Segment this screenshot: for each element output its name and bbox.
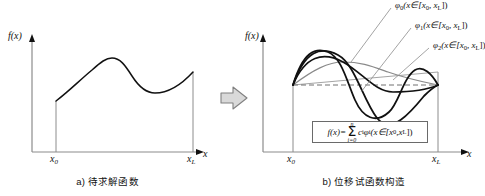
panel-a-solution-function: f(x) x x0 xL a) 待求解函数 — [0, 0, 215, 196]
panel-b-xL-tick-label: xL — [432, 153, 440, 166]
phi1-label: φ1(x∈[x0, xL]) — [415, 20, 467, 31]
panel-b-y-axis-label: f(x) — [245, 30, 259, 41]
figure-container: f(x) x x0 xL a) 待求解函数 — [0, 0, 485, 196]
panel-a-y-axis-arrowhead — [29, 34, 35, 42]
panel-b-x-axis-label: x — [467, 148, 471, 159]
panel-b-y-axis-arrowhead — [260, 34, 266, 42]
panel-b-caption: b) 位移试函数构造 — [243, 174, 485, 188]
panel-a-x0-tick-label: x0 — [50, 153, 58, 166]
trial-function-formula-box: f(x)= n Σ i=0 ciφi(x∈[x0,xL]) — [312, 121, 428, 143]
panel-a-plot — [0, 0, 215, 170]
panel-b-x0-tick-label: x0 — [287, 153, 295, 166]
panel-a-x-axis-label: x — [203, 148, 207, 159]
phi0-leader-line — [351, 8, 391, 62]
trial-function-formula: f(x)= n Σ i=0 ciφi(x∈[x0,xL]) — [327, 121, 412, 143]
panel-a-xL-tick-label: xL — [187, 153, 195, 166]
phi2-curve — [293, 50, 438, 118]
solution-function-curve — [56, 58, 193, 101]
phi0-label: φ0(x∈[x0, xL]) — [395, 0, 447, 11]
phi1-leader-line — [361, 28, 411, 92]
panel-a-caption: a) 待求解函数 — [0, 174, 215, 188]
panel-b-trial-function-construction: f(x) x x0 xL φ0(x∈[x0, xL]) φ1(x∈[x0, xL… — [243, 0, 485, 196]
summation-symbol: n Σ i=0 — [348, 121, 357, 143]
phi1-curve — [293, 51, 438, 125]
phi2-leader-line — [393, 48, 429, 80]
panel-a-y-axis-label: f(x) — [8, 30, 22, 41]
phi2-label: φ2(x∈[x0, xL]) — [433, 40, 485, 51]
